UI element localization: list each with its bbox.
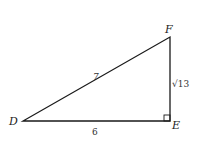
side-label-df: 7 (93, 72, 99, 82)
vertex-label-e: E (171, 119, 180, 132)
triangle-diagram: D E F 7 6 √13 (0, 0, 202, 142)
side-label-ef: √13 (172, 79, 189, 89)
side-label-de: 6 (92, 127, 98, 137)
right-angle-marker (164, 115, 170, 121)
vertex-label-f: F (164, 23, 173, 36)
vertex-label-d: D (8, 115, 18, 128)
